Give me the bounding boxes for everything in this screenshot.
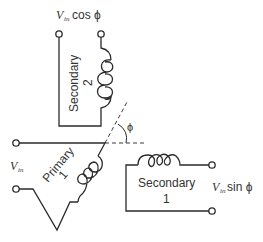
svg-text:Primary: Primary xyxy=(40,144,77,185)
svg-text:2: 2 xyxy=(81,79,95,86)
terminal-icon xyxy=(209,208,215,214)
coil-icon xyxy=(98,60,113,100)
primary-winding: Primary 1 xyxy=(13,140,105,230)
coil-icon xyxy=(138,154,209,166)
resolver-diagram: V in cos ϕ Secondary 2 ϕ Primary 1 V in xyxy=(0,0,263,242)
terminal-icon xyxy=(13,140,19,146)
svg-text:1: 1 xyxy=(56,168,71,182)
terminal-icon xyxy=(98,31,104,37)
svg-text:ϕ: ϕ xyxy=(127,121,133,133)
svg-text:Secondary: Secondary xyxy=(138,176,195,190)
svg-text:in: in xyxy=(64,15,70,23)
terminal-icon xyxy=(13,186,19,192)
secondary2-winding: Secondary 2 xyxy=(56,31,113,126)
svg-text:sin ϕ: sin ϕ xyxy=(227,180,253,194)
svg-text:in: in xyxy=(220,187,226,195)
secondary2-output-label: V in cos ϕ xyxy=(56,8,101,23)
svg-text:1: 1 xyxy=(163,192,170,206)
terminal-icon xyxy=(56,31,62,37)
input-label: V in xyxy=(10,159,24,174)
secondary1-winding: Secondary 1 xyxy=(126,154,215,214)
angle-indicator: ϕ xyxy=(105,102,146,143)
terminal-icon xyxy=(209,162,215,168)
svg-text:in: in xyxy=(18,166,24,174)
svg-text:Secondary: Secondary xyxy=(67,55,81,112)
secondary1-output-label: V in sin ϕ xyxy=(212,180,253,195)
coil-icon xyxy=(78,156,103,202)
svg-text:cos ϕ: cos ϕ xyxy=(72,8,101,22)
